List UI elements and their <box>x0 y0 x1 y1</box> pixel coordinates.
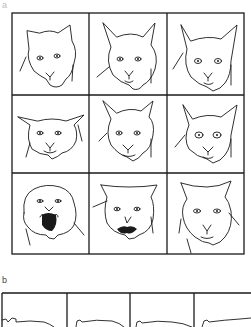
cat-face-icon-ears-flat <box>18 115 84 159</box>
cat-body-outline-icon-3 <box>136 321 192 327</box>
cat-face-icon-relaxed <box>20 25 76 87</box>
cat-face-icon-hissing <box>24 185 85 245</box>
cat-body-outline-icon-4 <box>202 318 251 327</box>
cat-body-outline-icon-1 <box>2 318 54 327</box>
panel-b-grid <box>2 293 251 327</box>
cat-face-icon-ears-forward <box>173 25 237 91</box>
cat-face-icon-wide-eyed <box>175 105 237 163</box>
cat-face-icon-snarling <box>93 185 157 239</box>
figure-canvas <box>0 0 251 327</box>
cat-face-icon-neutral <box>99 101 154 161</box>
cat-face-icon-alert <box>97 23 156 90</box>
cat-face-icon-ears-rotated <box>179 181 239 253</box>
cat-body-outline-icon-2 <box>76 320 124 327</box>
